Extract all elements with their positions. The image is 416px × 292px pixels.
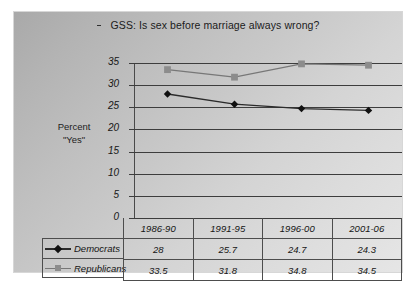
table-row: 2825.724.724.3	[124, 239, 402, 260]
legend-label: Democrats	[71, 243, 120, 254]
data-point-marker	[231, 74, 238, 81]
chart-frame: GSS: Is sex before marriage always wrong…	[14, 12, 402, 272]
chart-title: GSS: Is sex before marriage always wrong…	[14, 19, 402, 31]
data-table: 1986-901991-951996-002001-062825.724.724…	[123, 218, 402, 281]
y-tick-label: 5	[95, 189, 119, 200]
table-cell: 28	[124, 239, 194, 260]
legend-swatch	[45, 243, 71, 255]
table-cell: 25.7	[193, 239, 263, 260]
chart-title-text: GSS: Is sex before marriage always wrong…	[111, 19, 320, 31]
column-header: 1996-00	[263, 218, 333, 239]
legend-swatch	[45, 262, 71, 274]
legend-item-republicans: Republicans	[42, 258, 124, 278]
table-row: 33.531.834.834.5	[124, 260, 402, 281]
table-cell: 24.3	[332, 239, 402, 260]
screenshot-root: GSS: Is sex before marriage always wrong…	[0, 0, 416, 292]
y-tick-label: 35	[95, 56, 119, 67]
y-tick-label: 30	[95, 78, 119, 89]
table-cell: 34.8	[263, 260, 333, 281]
data-point-marker	[231, 100, 238, 107]
table-header-row: 1986-901991-951996-002001-06	[124, 218, 402, 239]
data-point-marker	[298, 60, 305, 67]
plot-area: 05101520253035	[123, 52, 402, 218]
square-marker-icon	[55, 265, 61, 271]
table-cell: 31.8	[193, 260, 263, 281]
series-line-republicans	[168, 64, 369, 77]
legend-item-democrats: Democrats	[42, 238, 124, 258]
column-header: 2001-06	[332, 218, 402, 239]
table-cell: 34.5	[332, 260, 402, 281]
series-line-democrats	[168, 94, 369, 110]
series-layer	[123, 52, 402, 218]
legend: DemocratsRepublicans	[42, 238, 124, 278]
data-point-marker	[365, 107, 372, 114]
diamond-marker-icon	[54, 244, 62, 252]
y-tick-label: 25	[95, 100, 119, 111]
y-tick-label: 15	[95, 145, 119, 156]
table-cell: 24.7	[263, 239, 333, 260]
y-tick-label: 20	[95, 122, 119, 133]
column-header: 1991-95	[193, 218, 263, 239]
table-cell: 33.5	[124, 260, 194, 281]
y-tick-label: 0	[95, 211, 119, 222]
data-point-marker	[365, 62, 372, 69]
dash-bullet-icon	[97, 25, 101, 27]
data-point-marker	[164, 66, 171, 73]
data-point-marker	[164, 90, 171, 97]
y-tick-label: 10	[95, 167, 119, 178]
column-header: 1986-90	[124, 218, 194, 239]
data-point-marker	[298, 105, 305, 112]
legend-label: Republicans	[71, 263, 126, 274]
